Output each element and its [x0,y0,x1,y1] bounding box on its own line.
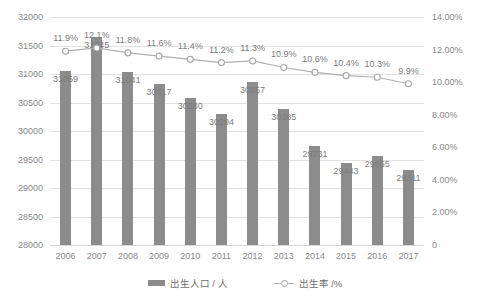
y-axis-right-tick: 14.00% [432,12,463,22]
bar [60,71,71,245]
line-marker [187,56,193,62]
gridline [50,103,424,104]
y-axis-right-tick: 12.00% [432,45,463,55]
bar-value-label: 30580 [166,101,214,111]
line-marker-swatch-icon [274,279,294,287]
gridline [50,131,424,132]
y-axis-left-tick: 31500 [0,41,43,51]
line-marker [281,64,287,70]
gridline [50,17,424,18]
x-axis-tick: 2017 [388,251,428,261]
bar-value-label: 29731 [291,149,339,159]
bar-value-label: 30385 [260,112,308,122]
bar [122,72,133,245]
y-axis-left-tick: 28500 [0,212,43,222]
y-axis-right-tick: 2.00% [432,207,458,217]
bar-value-label: 29565 [353,159,401,169]
y-axis-right-tick: 6.00% [432,142,458,152]
bar [185,98,196,245]
bar [154,84,165,245]
chart-legend: 出生人口 / 人 出生率 /% [0,276,490,290]
line-marker [405,81,411,87]
legend-item-birth-rate: 出生率 /% [274,276,343,290]
line-marker [218,60,224,66]
bar [91,37,102,245]
bar-value-label: 31059 [42,74,90,84]
line-marker [125,50,131,56]
y-axis-left-tick: 30000 [0,126,43,136]
y-axis-right-tick: 10.00% [432,77,463,87]
birth-population-rate-chart: 2800028500290002950030000305003100031500… [0,0,490,297]
legend-item-birth-population: 出生人口 / 人 [148,276,228,290]
legend-label-birth-rate: 出生率 /% [299,276,343,290]
y-axis-left-tick: 30500 [0,98,43,108]
gridline [50,217,424,218]
bar-swatch-icon [148,280,165,286]
legend-label-birth-population: 出生人口 / 人 [170,276,228,290]
line-value-label: 9.9% [388,66,428,76]
y-axis-right-tick: 4.00% [432,175,458,185]
line-marker [374,74,380,80]
x-axis-line [50,245,424,246]
bar [278,109,289,245]
y-axis-left-tick: 31000 [0,69,43,79]
line-marker [156,53,162,59]
bar-value-label: 30294 [197,117,245,127]
y-axis-right-tick: 0 [432,240,437,250]
y-axis-left-tick: 32000 [0,12,43,22]
gridline [50,188,424,189]
bar-value-label: 30817 [135,87,183,97]
bar-value-label: 30857 [229,85,277,95]
bar-value-label: 31041 [104,75,152,85]
y-axis-right-tick: 8.00% [432,110,458,120]
bar [247,82,258,245]
bar-value-label: 29311 [384,173,432,183]
bar [216,114,227,245]
bar [309,146,320,245]
line-marker [63,48,69,54]
bar [372,156,383,245]
y-axis-left-tick: 29500 [0,155,43,165]
y-axis-left-tick: 28000 [0,240,43,250]
y-axis-left-tick: 29000 [0,183,43,193]
line-marker [250,58,256,64]
